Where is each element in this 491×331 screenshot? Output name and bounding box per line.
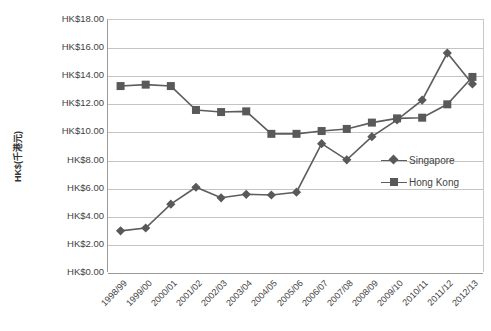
plot-area: [107, 19, 484, 272]
y-tick-label: HK$0.00: [38, 266, 104, 277]
y-tick-label: HK$8.00: [38, 154, 104, 165]
y-tick-label: HK$18.00: [38, 13, 104, 24]
data-point-hong-kong[interactable]: [167, 82, 175, 90]
line-chart: HK$(千港元) HK$18.00HK$16.00HK$14.00HK$12.0…: [0, 0, 491, 331]
y-axis-title: HK$(千港元): [11, 112, 24, 202]
data-point-hong-kong[interactable]: [368, 119, 376, 127]
y-tick-label: HK$12.00: [38, 97, 104, 108]
data-point-hong-kong[interactable]: [267, 130, 275, 138]
data-point-hong-kong[interactable]: [443, 100, 451, 108]
data-point-hong-kong[interactable]: [343, 125, 351, 133]
data-point-hong-kong[interactable]: [293, 130, 301, 138]
data-point-hong-kong[interactable]: [468, 73, 476, 81]
legend-label-singapore: Singapore: [407, 155, 455, 166]
plot-svg: [108, 20, 485, 273]
data-point-singapore[interactable]: [267, 190, 276, 199]
data-point-hong-kong[interactable]: [242, 107, 250, 115]
legend-item-singapore[interactable]: Singapore: [381, 152, 455, 168]
y-tick-label: HK$2.00: [38, 238, 104, 249]
data-point-singapore[interactable]: [292, 188, 301, 197]
y-tick-label: HK$16.00: [38, 41, 104, 52]
legend-item-hong-kong[interactable]: Hong Kong: [381, 174, 459, 190]
y-tick-label: HK$10.00: [38, 125, 104, 136]
data-point-singapore[interactable]: [217, 193, 226, 202]
data-point-hong-kong[interactable]: [393, 114, 401, 122]
y-tick-label: HK$14.00: [38, 69, 104, 80]
data-point-singapore[interactable]: [191, 183, 200, 192]
x-axis-tick-labels: 1998/991999/002000/012001/022002/032003/…: [107, 272, 484, 331]
data-point-hong-kong[interactable]: [142, 81, 150, 89]
data-point-hong-kong[interactable]: [217, 108, 225, 116]
y-tick-label: HK$4.00: [38, 210, 104, 221]
legend-label-hong-kong: Hong Kong: [407, 177, 459, 188]
chart-legend: Singapore Hong Kong: [381, 152, 485, 194]
diamond-marker-icon: [381, 154, 407, 166]
square-marker-icon: [381, 176, 407, 188]
data-point-hong-kong[interactable]: [418, 114, 426, 122]
y-axis-tick-labels: HK$18.00HK$16.00HK$14.00HK$12.00HK$10.00…: [34, 0, 104, 331]
data-point-hong-kong[interactable]: [192, 106, 200, 114]
data-point-singapore[interactable]: [242, 190, 251, 199]
data-point-hong-kong[interactable]: [117, 82, 125, 90]
data-point-hong-kong[interactable]: [318, 127, 326, 135]
y-tick-label: HK$6.00: [38, 182, 104, 193]
data-point-singapore[interactable]: [317, 139, 326, 148]
data-point-singapore[interactable]: [116, 226, 125, 235]
